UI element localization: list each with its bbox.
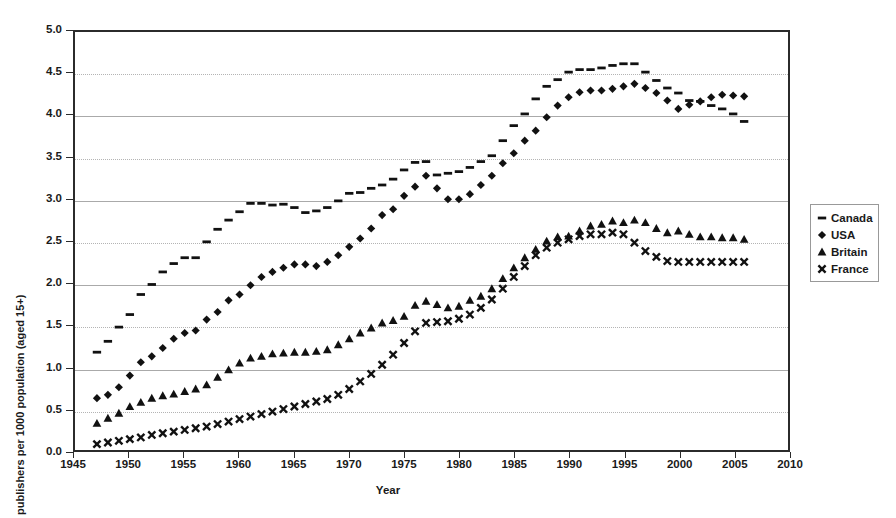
data-points-layer	[75, 32, 788, 450]
y-tick-label: 3.0	[28, 192, 62, 204]
x-tick-mark	[735, 452, 736, 458]
x-tick-label: 2010	[760, 458, 820, 470]
legend-item-canada[interactable]: Canada	[814, 209, 873, 226]
x-tick-mark	[238, 452, 239, 458]
x-tick-mark	[183, 452, 184, 458]
y-tick-label: 2.0	[28, 276, 62, 288]
y-tick-label: 5.0	[28, 23, 62, 35]
y-tick-label: 0.0	[28, 445, 62, 457]
dash-marker-icon	[814, 211, 831, 225]
x-tick-mark	[514, 452, 515, 458]
x-tick-label: 1945	[43, 458, 103, 470]
legend-label: France	[831, 262, 869, 276]
y-tick-mark	[66, 72, 73, 73]
x-tick-label: 1985	[484, 458, 544, 470]
x-tick-label: 1960	[208, 458, 268, 470]
y-tick-label: 4.5	[28, 65, 62, 77]
x-axis-title: Year	[376, 484, 400, 496]
series-usa	[93, 80, 748, 402]
y-tick-mark	[66, 157, 73, 158]
x-tick-mark	[680, 452, 681, 458]
x-tick-label: 1980	[429, 458, 489, 470]
x-tick-label: 2005	[705, 458, 765, 470]
x-marker-icon	[814, 262, 831, 276]
y-tick-mark	[66, 410, 73, 411]
x-tick-mark	[625, 452, 626, 458]
x-tick-mark	[349, 452, 350, 458]
x-axis-title-wrapper: Year	[0, 484, 896, 496]
y-tick-mark	[66, 325, 73, 326]
x-tick-mark	[404, 452, 405, 458]
legend-item-france[interactable]: France	[814, 260, 873, 277]
diamond-marker-icon	[814, 228, 831, 242]
triangle-marker-icon	[814, 245, 831, 259]
legend-item-usa[interactable]: USA	[814, 226, 873, 243]
chart-root: publishers per 1000 population (aged 15+…	[0, 0, 896, 518]
series-france	[93, 229, 747, 448]
x-tick-mark	[569, 452, 570, 458]
x-tick-label: 1965	[264, 458, 324, 470]
x-tick-label: 1950	[98, 458, 158, 470]
legend-item-britain[interactable]: Britain	[814, 243, 873, 260]
chart-legend: CanadaUSABritainFrance	[810, 204, 879, 282]
legend-label: USA	[831, 228, 855, 242]
x-tick-mark	[790, 452, 791, 458]
y-axis-title: publishers per 1000 population (aged 15+…	[14, 245, 26, 515]
y-tick-label: 0.5	[28, 403, 62, 415]
y-tick-label: 1.0	[28, 361, 62, 373]
y-tick-mark	[66, 368, 73, 369]
x-tick-label: 1990	[539, 458, 599, 470]
y-tick-label: 1.5	[28, 318, 62, 330]
x-tick-mark	[459, 452, 460, 458]
y-tick-mark	[66, 452, 73, 453]
y-tick-label: 2.5	[28, 234, 62, 246]
x-tick-label: 1970	[319, 458, 379, 470]
y-tick-mark	[66, 241, 73, 242]
y-tick-mark	[66, 30, 73, 31]
x-tick-mark	[73, 452, 74, 458]
x-tick-mark	[294, 452, 295, 458]
y-tick-label: 3.5	[28, 150, 62, 162]
legend-label: Canada	[831, 211, 873, 225]
x-tick-label: 1975	[374, 458, 434, 470]
legend-label: Britain	[831, 245, 867, 259]
y-tick-label: 4.0	[28, 107, 62, 119]
x-tick-label: 1955	[153, 458, 213, 470]
x-tick-label: 1995	[595, 458, 655, 470]
y-tick-mark	[66, 199, 73, 200]
y-tick-mark	[66, 114, 73, 115]
x-tick-mark	[128, 452, 129, 458]
x-tick-label: 2000	[650, 458, 710, 470]
y-tick-mark	[66, 283, 73, 284]
plot-area	[73, 30, 790, 452]
series-canada	[93, 62, 749, 353]
series-britain	[93, 216, 749, 427]
